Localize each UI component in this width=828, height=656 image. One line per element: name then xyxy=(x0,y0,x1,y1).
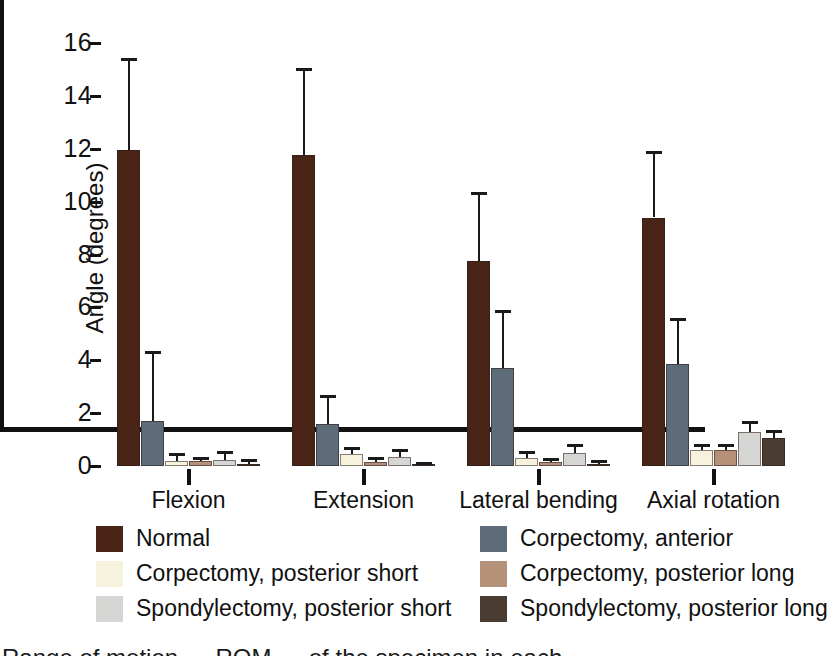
error-bar-cap xyxy=(591,460,607,463)
bar xyxy=(340,454,363,466)
bar xyxy=(213,460,236,466)
error-bar xyxy=(128,58,130,151)
error-bar-cap xyxy=(193,457,209,460)
y-tick-label: 6 xyxy=(78,292,92,321)
bar xyxy=(762,438,785,466)
legend-swatch-icon xyxy=(96,561,123,587)
bar xyxy=(467,261,490,466)
legend-label: Spondylectomy, posterior short xyxy=(136,595,451,622)
x-tick-label: Flexion xyxy=(151,487,225,514)
legend-item[interactable]: Corpectomy, posterior long xyxy=(480,560,828,587)
error-bar xyxy=(677,318,679,364)
error-bar-cap xyxy=(344,447,360,450)
error-bar-cap xyxy=(718,444,734,447)
bar xyxy=(388,457,411,466)
error-bar-cap xyxy=(670,318,686,321)
error-bar-cap xyxy=(495,310,511,313)
y-tick-label: 14 xyxy=(64,81,92,110)
legend-swatch-icon xyxy=(96,596,123,622)
bar xyxy=(714,450,737,466)
legend-label: Normal xyxy=(136,525,210,552)
bar xyxy=(587,464,610,466)
legend-label: Corpectomy, anterior xyxy=(520,525,733,552)
legend-item[interactable]: Spondylectomy, posterior short xyxy=(96,595,480,622)
legend-label: Spondylectomy, posterior long xyxy=(520,595,828,622)
x-tick xyxy=(187,469,191,485)
error-bar-cap xyxy=(519,451,535,454)
y-tick-label: 16 xyxy=(64,28,92,57)
x-tick xyxy=(537,469,541,485)
legend-item[interactable]: Normal xyxy=(96,525,480,552)
error-bar-cap xyxy=(567,444,583,447)
bar xyxy=(563,453,586,466)
bar xyxy=(515,458,538,466)
error-bar-cap xyxy=(416,462,432,465)
error-bar xyxy=(653,151,655,217)
bar xyxy=(491,368,514,466)
legend-label: Corpectomy, posterior long xyxy=(520,560,794,587)
error-bar-cap xyxy=(471,192,487,195)
error-bar-cap xyxy=(543,458,559,461)
legend-label: Corpectomy, posterior short xyxy=(136,560,418,587)
error-bar-cap xyxy=(392,449,408,452)
bar xyxy=(690,450,713,466)
bar xyxy=(539,462,562,466)
y-tick-label: 8 xyxy=(78,239,92,268)
bar xyxy=(738,432,761,466)
error-bar-cap xyxy=(646,151,662,154)
legend-swatch-icon xyxy=(480,561,507,587)
y-tick-label: 4 xyxy=(78,345,92,374)
error-bar-cap xyxy=(296,68,312,71)
plot-area: Angle (degrees) 0246810121416 xyxy=(101,43,801,466)
error-bar-cap xyxy=(145,351,161,354)
error-bar-cap xyxy=(121,58,137,61)
bar xyxy=(316,424,339,466)
legend-item[interactable]: Corpectomy, posterior short xyxy=(96,560,480,587)
x-tick xyxy=(362,469,366,485)
y-tick-label: 2 xyxy=(78,398,92,427)
bar xyxy=(117,150,140,466)
error-bar-cap xyxy=(169,453,185,456)
bar xyxy=(189,461,212,466)
bar xyxy=(642,218,665,467)
error-bar-cap xyxy=(241,459,257,462)
legend-item[interactable]: Spondylectomy, posterior long xyxy=(480,595,828,622)
legend-swatch-icon xyxy=(480,596,507,622)
legend-swatch-icon xyxy=(96,526,123,552)
figure-caption: Range of motion — ROM — of the specimen … xyxy=(2,644,817,656)
bar xyxy=(237,464,260,466)
x-tick-label: Lateral bending xyxy=(459,487,618,514)
y-tick-label: 12 xyxy=(64,134,92,163)
legend-swatch-icon xyxy=(480,526,507,552)
error-bar-cap xyxy=(694,444,710,447)
bar xyxy=(141,421,164,466)
bar xyxy=(666,364,689,466)
y-tick-label: 0 xyxy=(78,451,92,480)
error-bar xyxy=(478,192,480,261)
error-bar-cap xyxy=(742,421,758,424)
legend: NormalCorpectomy, anteriorCorpectomy, po… xyxy=(96,521,756,626)
error-bar xyxy=(152,351,154,421)
error-bar-cap xyxy=(766,430,782,433)
error-bar xyxy=(303,68,305,155)
error-bar-cap xyxy=(368,457,384,460)
bar xyxy=(364,462,387,466)
bar xyxy=(165,461,188,466)
bar xyxy=(292,155,315,466)
y-tick-label: 10 xyxy=(64,187,92,216)
error-bar-cap xyxy=(217,451,233,454)
x-tick-label: Axial rotation xyxy=(647,487,780,514)
error-bar xyxy=(327,395,329,424)
x-tick xyxy=(712,469,716,485)
error-bar xyxy=(502,310,504,368)
legend-item[interactable]: Corpectomy, anterior xyxy=(480,525,828,552)
y-axis-line xyxy=(0,0,4,427)
error-bar-cap xyxy=(320,395,336,398)
x-tick-label: Extension xyxy=(313,487,414,514)
